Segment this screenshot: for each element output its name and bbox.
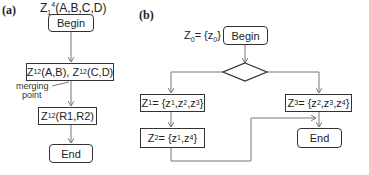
a-end-node: End <box>49 144 93 163</box>
b-begin-node: Begin <box>223 26 268 45</box>
b-z3-node: Z3= {z2,z3,z4} <box>285 94 352 112</box>
b-z1-node: Z1= {z1,z2,z3} <box>140 94 205 112</box>
b-end-node: End <box>297 128 342 148</box>
a-merge-node: Z12(R1,R2) <box>38 107 97 125</box>
panel-b-label: (b) <box>139 8 154 23</box>
merging-point-label: mergingpoint <box>16 82 49 100</box>
panel-a-label: (a) <box>2 3 16 18</box>
b-z2-node: Z2= {z1,z4} <box>140 128 205 148</box>
a-split-node: Z12(A,B), Z12(C,D) <box>26 63 114 81</box>
a-begin-node: Begin <box>48 14 94 32</box>
panel-a-title: Z14(A,B,C,D) <box>40 1 107 15</box>
z0-label: Z0= {z0} <box>184 29 221 41</box>
